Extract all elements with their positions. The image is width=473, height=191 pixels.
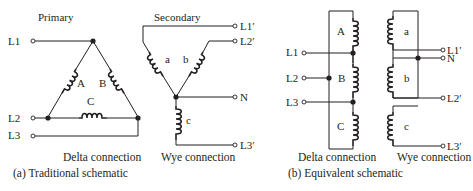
- terminal-l1-eq: [302, 51, 306, 55]
- terminal-n: [233, 95, 237, 99]
- coil-b-eq: [388, 64, 393, 98]
- terminal-l1-prime: [233, 24, 237, 28]
- terminal-l1: [31, 39, 35, 43]
- transformer-diagram: Primary L1 A B C L2 L3: [0, 0, 473, 191]
- coil-label-a: a: [165, 53, 170, 65]
- terminal-l3: [31, 134, 35, 138]
- junction-left: [45, 115, 50, 120]
- coil-C-eq: [353, 112, 358, 146]
- terminal-l3-eq: [302, 100, 306, 104]
- terminal-n-eq: [441, 56, 445, 60]
- coil-label-A-eq: A: [337, 25, 345, 37]
- terminal-label-l3-prime: L3′: [240, 139, 255, 151]
- terminal-l2-eq: [302, 76, 306, 80]
- terminal-label-n-eq: N: [447, 52, 455, 64]
- primary-subtitle: Delta connection: [63, 151, 141, 163]
- terminal-label-l1-eq: L1: [286, 46, 298, 58]
- terminal-l2: [31, 116, 35, 120]
- coil-label-a-eq: a: [404, 25, 409, 37]
- coil-label-B-eq: B: [338, 72, 345, 84]
- terminal-label-l2-prime: L2′: [240, 35, 255, 47]
- terminal-label-l2: L2: [8, 112, 20, 124]
- coil-label-B: B: [99, 77, 106, 89]
- coil-B-eq: [353, 64, 358, 98]
- coil-label-b: b: [183, 53, 189, 65]
- terminal-l2-prime-eq: [441, 96, 445, 100]
- caption-a: (a) Traditional schematic: [13, 167, 128, 180]
- terminal-label-l3: L3: [8, 129, 21, 141]
- coil-label-A: A: [77, 77, 85, 89]
- terminal-label-n: N: [240, 91, 248, 103]
- coil-A-eq: [353, 18, 358, 52]
- coil-b: [189, 52, 207, 78]
- junction-n-eq: [415, 55, 420, 60]
- coil-label-C: C: [87, 95, 94, 107]
- terminal-label-l2-prime-eq: L2′: [447, 92, 462, 104]
- coil-label-c: c: [186, 114, 191, 126]
- panel-b-secondary-wye: a L1′ N b L2′ c L3′ Wye connection: [388, 11, 472, 164]
- coil-c-eq: [388, 112, 393, 146]
- coil-C: [79, 114, 107, 119]
- coil-label-b-eq: b: [404, 72, 410, 84]
- primary-subtitle-eq: Delta connection: [298, 151, 376, 163]
- coil-label-c-eq: c: [404, 120, 409, 132]
- junction-l2-eq: [326, 75, 331, 80]
- terminal-l3-prime: [233, 143, 237, 147]
- panel-b-primary-delta: A L1 B L2 L3 C Delta connection: [286, 11, 376, 163]
- caption-b: (b) Equivalent schematic: [288, 167, 403, 180]
- secondary-subtitle: Wye connection: [161, 151, 236, 164]
- coil-label-C-eq: C: [337, 120, 344, 132]
- primary-title: Primary: [38, 11, 74, 23]
- terminal-label-l1: L1: [8, 35, 20, 47]
- terminal-label-l3-eq: L3: [286, 96, 299, 108]
- terminal-label-l1-prime: L1′: [240, 20, 255, 32]
- secondary-subtitle-eq: Wye connection: [397, 151, 472, 164]
- panel-a-primary-delta: Primary L1 A B C L2 L3: [8, 11, 141, 163]
- terminal-l3-prime-eq: [441, 144, 445, 148]
- coil-a: [145, 52, 163, 78]
- terminal-l1-prime-eq: [441, 48, 445, 52]
- terminal-label-l2-eq: L2: [286, 72, 298, 84]
- coil-c: [176, 106, 181, 140]
- terminal-l2-prime: [233, 39, 237, 43]
- coil-B: [106, 69, 124, 95]
- panel-a-secondary-wye: Secondary a L1′ b L2′ N c: [143, 11, 255, 164]
- coil-a-eq: [388, 16, 393, 50]
- secondary-title: Secondary: [154, 11, 201, 23]
